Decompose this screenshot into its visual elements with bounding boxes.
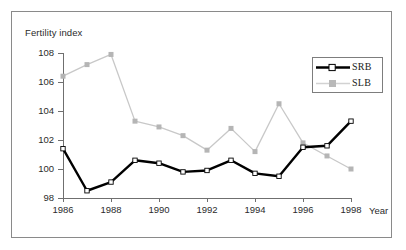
legend-label-slb: SLB — [352, 77, 371, 88]
chart-screenshot: Fertility index Year 98100102104106108 1… — [0, 0, 406, 250]
data-point-srb — [229, 158, 233, 162]
data-point-slb — [253, 149, 258, 154]
data-point-srb — [277, 174, 281, 178]
data-point-srb — [301, 145, 305, 149]
series-lines — [12, 12, 393, 239]
data-point-srb — [133, 158, 137, 162]
data-point-slb — [61, 74, 66, 79]
data-point-slb — [181, 133, 186, 138]
data-point-srb — [85, 189, 89, 193]
data-point-slb — [133, 119, 138, 124]
data-point-slb — [157, 124, 162, 129]
data-point-srb — [253, 171, 257, 175]
data-point-slb — [85, 62, 90, 67]
legend-item-slb: SLB — [313, 76, 384, 91]
data-point-srb — [61, 147, 65, 151]
legend-swatch-srb — [316, 60, 350, 75]
data-point-slb — [325, 153, 330, 158]
data-point-srb — [349, 119, 353, 123]
data-point-slb — [349, 167, 354, 172]
data-point-slb — [205, 148, 210, 153]
legend-swatch-slb — [316, 76, 350, 91]
data-point-srb — [157, 161, 161, 165]
chart-legend: SRB SLB — [312, 57, 383, 93]
chart-frame: Fertility index Year 98100102104106108 1… — [11, 11, 392, 238]
legend-label-srb: SRB — [352, 61, 372, 72]
data-point-srb — [109, 180, 113, 184]
legend-item-srb: SRB — [313, 60, 384, 75]
data-point-slb — [109, 52, 114, 57]
data-point-srb — [205, 168, 209, 172]
data-point-slb — [229, 126, 234, 131]
series-line-srb — [63, 121, 351, 191]
data-point-slb — [277, 101, 282, 106]
data-point-srb — [181, 170, 185, 174]
chart-plot-region: Fertility index Year 98100102104106108 1… — [12, 12, 393, 239]
data-point-srb — [325, 144, 329, 148]
